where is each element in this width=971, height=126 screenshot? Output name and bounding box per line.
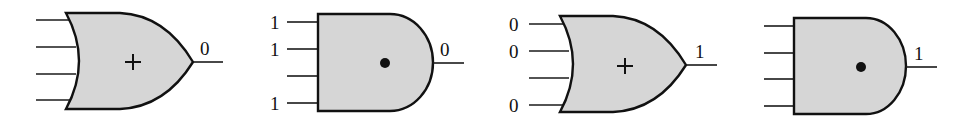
dot-symbol-icon (856, 62, 866, 72)
input-label-4: 1 (270, 93, 280, 114)
output-label: 0 (200, 38, 210, 59)
and-gate-2: 1 1 1 0 (270, 12, 464, 114)
input-label-2: 0 (509, 41, 519, 62)
input-label-4: 0 (509, 95, 519, 116)
input-label-1: 0 (509, 14, 519, 35)
output-label: 1 (914, 43, 924, 64)
logic-gates-diagram: 0 1 1 1 0 0 0 0 1 (0, 0, 971, 126)
and-gate-body (318, 14, 433, 111)
output-label: 1 (695, 41, 705, 62)
dot-symbol-icon (380, 58, 390, 68)
and-gate-body (794, 18, 906, 114)
or-gate-body (560, 16, 686, 112)
input-label-1: 1 (270, 12, 280, 33)
output-label: 0 (440, 39, 450, 60)
or-gate-1: 0 (36, 13, 223, 109)
input-label-2: 1 (270, 39, 280, 60)
or-gate-3: 0 0 0 1 (509, 14, 717, 116)
and-gate-4: 1 (764, 18, 937, 114)
